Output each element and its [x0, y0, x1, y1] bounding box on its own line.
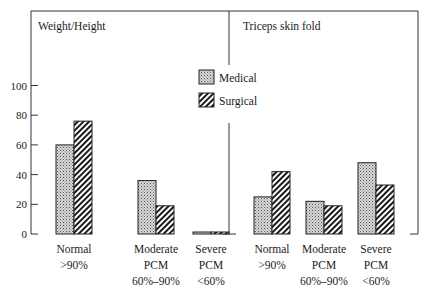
y-tick-label: 100 [11, 80, 28, 92]
y-tick-label: 0 [22, 228, 28, 240]
x-category-label: Moderate [302, 243, 346, 255]
x-category-label: PCM [144, 259, 168, 271]
bar-surgical [272, 172, 290, 234]
x-category-label: >90% [258, 259, 286, 271]
x-category-label: Severe [195, 243, 226, 255]
bar-medical [254, 197, 272, 234]
chart: 020406080100 Weight/Height Triceps skin … [0, 0, 433, 293]
legend: Medical Surgical [199, 70, 257, 108]
y-axis: 020406080100 [11, 80, 39, 241]
legend-swatch-medical [199, 70, 214, 84]
bar-surgical [156, 206, 174, 234]
x-category-label: <60% [197, 275, 225, 287]
bars [56, 121, 394, 234]
x-category-label: 60%–90% [300, 275, 348, 287]
x-category-label: >90% [60, 259, 88, 271]
bar-surgical [211, 232, 229, 234]
x-category-label: PCM [199, 259, 223, 271]
x-category-label: PCM [364, 259, 388, 271]
bar-medical [306, 201, 324, 234]
legend-swatch-surgical [199, 93, 214, 107]
x-category-label: Severe [360, 243, 391, 255]
y-tick-label: 60 [16, 139, 28, 151]
bar-surgical [376, 185, 394, 234]
y-tick-label: 80 [16, 109, 28, 121]
y-tick-label: 20 [16, 198, 28, 210]
x-category-label: PCM [312, 259, 336, 271]
panel-title-triceps: Triceps skin fold [243, 20, 321, 33]
bar-medical [56, 145, 74, 234]
y-tick-label: 40 [16, 169, 28, 181]
bar-surgical [324, 206, 342, 234]
x-category-label: <60% [362, 275, 390, 287]
legend-label-surgical: Surgical [219, 95, 257, 108]
x-category-label: Moderate [134, 243, 178, 255]
legend-label-medical: Medical [219, 72, 257, 84]
x-labels: Normal>90%ModeratePCM60%–90%SeverePCM<60… [56, 243, 391, 287]
bar-medical [138, 181, 156, 234]
x-category-label: Normal [254, 243, 289, 255]
bar-medical [193, 232, 211, 234]
x-category-label: Normal [56, 243, 91, 255]
bar-surgical [74, 121, 92, 234]
x-category-label: 60%–90% [132, 275, 180, 287]
bar-medical [358, 163, 376, 234]
panel-title-weight-height: Weight/Height [38, 20, 106, 33]
